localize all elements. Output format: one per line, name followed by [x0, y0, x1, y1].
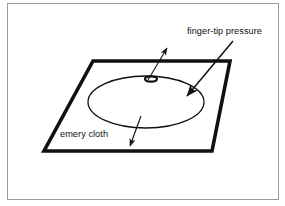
figure-root: finger-tip pressure emery cloth [0, 0, 285, 206]
label-finger-tip-pressure: finger-tip pressure [187, 26, 262, 36]
finger-contact-spot [145, 76, 157, 81]
figure-canvas: finger-tip pressure emery cloth [0, 0, 285, 206]
label-emery-cloth: emery cloth [60, 129, 108, 139]
